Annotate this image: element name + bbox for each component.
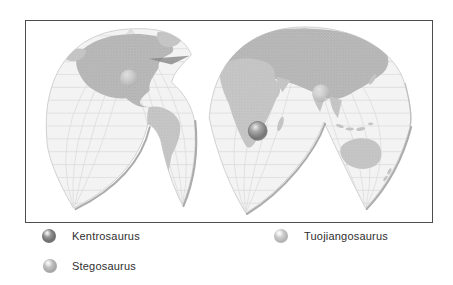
world-map xyxy=(26,21,432,222)
map-marker-kentrosaurus xyxy=(248,122,267,141)
legend-label-tuojiangosaurus: Tuojiangosaurus xyxy=(304,230,388,242)
map-marker-stegosaurus xyxy=(120,70,138,88)
legend-marker-stegosaurus-icon xyxy=(43,259,57,273)
legend-marker-kentrosaurus-icon xyxy=(42,229,56,243)
legend-marker-tuojiangosaurus-icon xyxy=(274,229,288,243)
legend-label-stegosaurus: Stegosaurus xyxy=(72,260,136,272)
world-map-frame xyxy=(25,20,433,223)
figure-page: Kentrosaurus Stegosaurus Tuojiangosaurus xyxy=(0,0,453,285)
map-marker-tuojiangosaurus xyxy=(312,84,330,102)
legend-label-kentrosaurus: Kentrosaurus xyxy=(72,230,140,242)
